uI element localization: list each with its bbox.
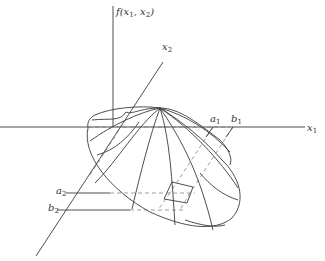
- diagram-canvas: f(x1, x2) x2 x1 a1 b1 a2 b2: [0, 0, 325, 261]
- surface-curve: [160, 108, 175, 225]
- projection-b1-low: [180, 193, 190, 210]
- f-axis-label: f(x1, x2): [116, 7, 154, 19]
- b1-tick: [226, 127, 233, 137]
- surface-curve: [132, 108, 160, 209]
- projection-a1-low: [158, 193, 170, 210]
- a1-label: a1: [210, 114, 220, 126]
- contour-curve: [200, 173, 238, 200]
- b1-label: b1: [231, 114, 242, 126]
- b2-label: b2: [48, 203, 59, 215]
- x2-axis: [36, 62, 163, 256]
- contour-curve: [92, 112, 126, 120]
- area-element: [164, 182, 193, 203]
- surface-diagram: [0, 0, 325, 261]
- a2-label: a2: [56, 186, 66, 198]
- x1-axis-label: x1: [307, 123, 317, 135]
- x2-axis-label: x2: [162, 42, 172, 54]
- a1-tick: [206, 127, 213, 137]
